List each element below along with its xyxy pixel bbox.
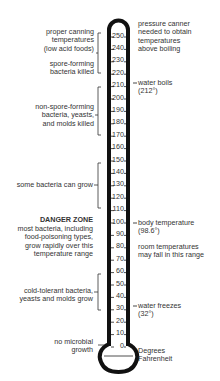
text-line: (low acid foods) [44, 45, 94, 53]
tick-label: 170 [112, 130, 124, 139]
tick-label: 20 [116, 316, 124, 325]
thermometer-diagram: 2502402302202102001901801701601501401301… [0, 0, 220, 381]
tick-label: 70 [116, 254, 124, 263]
tick-label: 240 [112, 43, 124, 52]
label-water-boils: water boils (212°) [138, 79, 172, 96]
tick-label: 50 [116, 279, 124, 288]
danger-zone-heading: DANGER ZONE [40, 215, 93, 224]
thermometer-bulb [100, 344, 138, 372]
tick-label: 40 [116, 291, 124, 300]
scale-ticks: 2502402302202102001901801701601501401301… [111, 31, 126, 350]
label-water-freezes: water freezes (32°) [138, 302, 181, 319]
text-line: bacteria killed [50, 68, 94, 76]
tick-label: 230 [112, 55, 124, 64]
tick-label: 130 [112, 179, 124, 188]
tick-label: 150 [112, 155, 124, 164]
tick-label: 10 [116, 328, 124, 337]
tick-label: 180 [112, 117, 124, 126]
tick-label: 110 [113, 204, 124, 213]
tick-label: 190 [112, 105, 124, 114]
label-danger-zone: most bacteria, including food-poisoning … [17, 225, 93, 259]
label-pressure-canner: pressure canner needed to obtain tempera… [138, 20, 192, 54]
label-body-temperature: body temperature (98.6°) [138, 219, 194, 236]
label-canning: proper canning temperatures (low acid fo… [44, 28, 94, 53]
tick-label: 80 [116, 241, 124, 250]
tick-label: 30 [116, 303, 124, 312]
right-markers [133, 83, 137, 306]
tick-label: 220 [112, 68, 124, 77]
label-room-temperatures: room temperatures may fall in this range [138, 243, 204, 260]
text-line: Fahrenheit [138, 355, 172, 363]
label-some-bacteria: some bacteria can grow [17, 181, 93, 189]
label-degrees-fahrenheit: Degrees Fahrenheit [138, 347, 172, 364]
text-line: (32°) [138, 310, 181, 318]
thermometer-graphic: 2502402302202102001901801701601501401301… [0, 0, 220, 381]
tick-label: 140 [112, 167, 124, 176]
text-line: above boiling [138, 45, 192, 53]
text-line: temperature range [17, 250, 93, 258]
tick-label: 160 [112, 142, 124, 151]
text-line: (98.6°) [138, 227, 194, 235]
tick-label: 200 [112, 93, 124, 102]
tick-label: 0 [120, 341, 124, 350]
left-brackets [94, 33, 104, 345]
text-line: may fall in this range [138, 251, 204, 259]
tick-label: 250 [112, 31, 124, 40]
tick-label: 100 [112, 217, 124, 226]
text-line: (212°) [138, 87, 172, 95]
text-line: some bacteria can grow [17, 181, 93, 189]
label-no-growth: no microbial growth [54, 338, 93, 355]
label-spore-forming: spore-forming bacteria killed [50, 60, 94, 77]
text-line: and molds killed [35, 120, 94, 128]
text-line: growth [54, 346, 93, 354]
tick-label: 120 [112, 192, 124, 201]
text-line: yeasts and molds grow [19, 295, 93, 303]
tick-label: 60 [116, 266, 124, 275]
tick-label: 210 [112, 80, 124, 89]
label-cold-tolerant: cold-tolerant bacteria, yeasts and molds… [19, 287, 93, 304]
label-non-spore-forming: non-spore-forming bacteria, yeasts, and … [35, 103, 94, 128]
tick-label: 90 [116, 229, 124, 238]
